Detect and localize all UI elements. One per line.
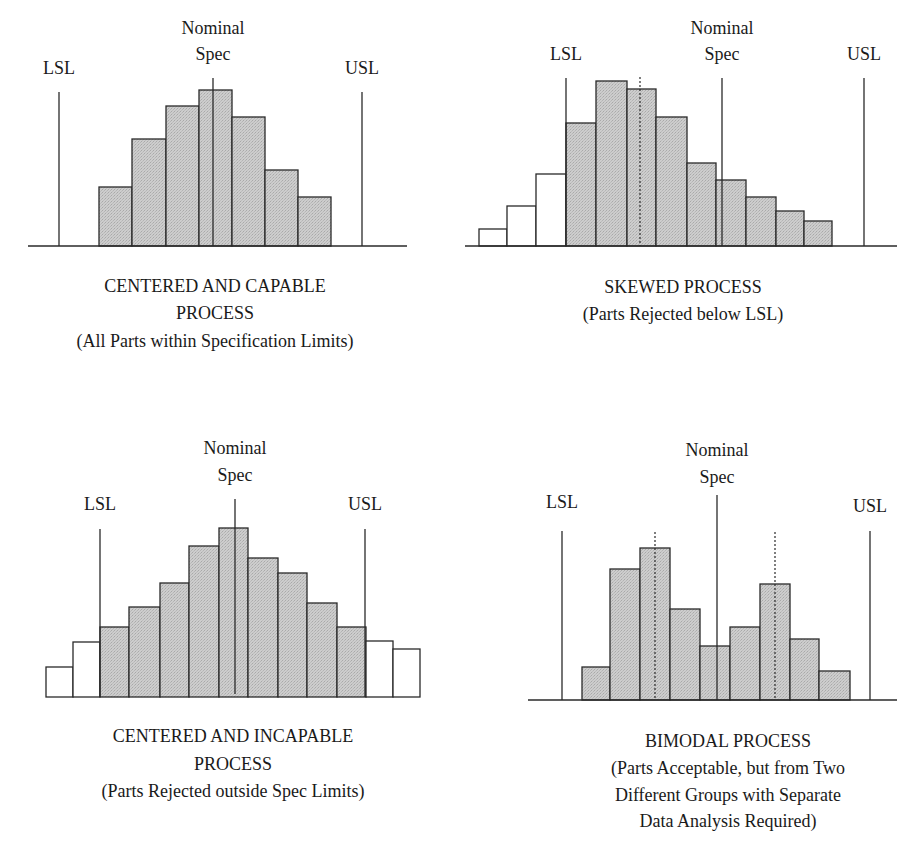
caption-line: (All Parts within Specification Limits) bbox=[77, 331, 354, 352]
nominal-label: Nominal bbox=[204, 438, 267, 458]
nominal-label: Nominal bbox=[691, 18, 754, 38]
in-spec-bar bbox=[199, 90, 232, 246]
rejected-bar bbox=[73, 642, 100, 697]
histogram-bars bbox=[99, 90, 331, 246]
histogram-bars bbox=[479, 81, 832, 246]
caption-line: CENTERED AND INCAPABLE bbox=[113, 726, 353, 746]
in-spec-bar bbox=[819, 671, 850, 700]
rejected-bar bbox=[507, 206, 536, 246]
in-spec-bar bbox=[278, 573, 307, 697]
panel-skewed: LSL USL Nominal Spec SKEWED PROCESS (Par… bbox=[465, 18, 897, 325]
nominal-label: Nominal bbox=[686, 440, 749, 460]
nominal-label: Nominal bbox=[182, 18, 245, 38]
in-spec-bar bbox=[219, 528, 248, 697]
histogram-bars bbox=[582, 548, 850, 700]
spec-label: Spec bbox=[700, 467, 735, 487]
in-spec-bar bbox=[746, 197, 776, 246]
in-spec-bar bbox=[730, 627, 760, 700]
in-spec-bar bbox=[265, 170, 298, 246]
panel-bimodal: LSL USL Nominal Spec BIMODAL PROCESS (Pa… bbox=[528, 440, 897, 832]
usl-label: USL bbox=[348, 494, 382, 514]
caption-line: (Parts Acceptable, but from Two bbox=[611, 758, 845, 779]
in-spec-bar bbox=[627, 89, 656, 246]
in-spec-bar bbox=[776, 211, 804, 246]
rejected-bar bbox=[366, 641, 393, 697]
rejected-bar bbox=[393, 649, 420, 697]
usl-label: USL bbox=[853, 496, 887, 516]
rejected-bar bbox=[536, 174, 566, 246]
caption-line: SKEWED PROCESS bbox=[604, 277, 762, 297]
in-spec-bar bbox=[166, 106, 199, 246]
in-spec-bar bbox=[298, 197, 331, 246]
in-spec-bar bbox=[596, 81, 627, 246]
lsl-label: LSL bbox=[84, 494, 116, 514]
panel-centered-incapable: LSL USL Nominal Spec CENTERED AND INCAPA… bbox=[46, 438, 420, 802]
process-capability-diagrams: LSL USL Nominal Spec CENTERED AND CAPABL… bbox=[0, 0, 921, 860]
caption-line: Data Analysis Required) bbox=[640, 811, 817, 832]
in-spec-bar bbox=[132, 139, 166, 246]
in-spec-bar bbox=[804, 221, 832, 246]
in-spec-bar bbox=[248, 558, 278, 697]
usl-label: USL bbox=[847, 44, 881, 64]
spec-label: Spec bbox=[705, 44, 740, 64]
caption-line: Different Groups with Separate bbox=[615, 785, 841, 805]
caption-line: BIMODAL PROCESS bbox=[645, 731, 811, 751]
in-spec-bar bbox=[189, 546, 219, 697]
in-spec-bar bbox=[337, 627, 366, 697]
caption-line: PROCESS bbox=[194, 754, 272, 774]
in-spec-bar bbox=[582, 667, 610, 700]
in-spec-bar bbox=[129, 607, 160, 697]
in-spec-bar bbox=[670, 609, 700, 700]
in-spec-bar bbox=[700, 646, 730, 700]
in-spec-bar bbox=[99, 187, 132, 246]
in-spec-bar bbox=[716, 180, 746, 246]
lsl-label: LSL bbox=[550, 44, 582, 64]
lsl-label: LSL bbox=[546, 492, 578, 512]
in-spec-bar bbox=[232, 117, 265, 246]
spec-label: Spec bbox=[196, 44, 231, 64]
rejected-bar bbox=[46, 667, 73, 697]
in-spec-bar bbox=[160, 583, 189, 697]
lsl-label: LSL bbox=[43, 58, 75, 78]
caption-line: (Parts Rejected outside Spec Limits) bbox=[102, 781, 365, 802]
in-spec-bar bbox=[687, 163, 716, 246]
in-spec-bar bbox=[790, 639, 819, 700]
in-spec-bar bbox=[100, 627, 129, 697]
in-spec-bar bbox=[566, 123, 596, 246]
caption-line: CENTERED AND CAPABLE bbox=[104, 276, 325, 296]
in-spec-bar bbox=[656, 117, 687, 246]
caption-line: PROCESS bbox=[176, 303, 254, 323]
usl-label: USL bbox=[345, 58, 379, 78]
in-spec-bar bbox=[610, 569, 640, 700]
panel-centered-capable: LSL USL Nominal Spec CENTERED AND CAPABL… bbox=[28, 18, 407, 352]
histogram-bars bbox=[46, 528, 420, 697]
rejected-bar bbox=[479, 229, 507, 246]
spec-label: Spec bbox=[218, 465, 253, 485]
caption-line: (Parts Rejected below LSL) bbox=[583, 304, 783, 325]
in-spec-bar bbox=[307, 603, 337, 697]
